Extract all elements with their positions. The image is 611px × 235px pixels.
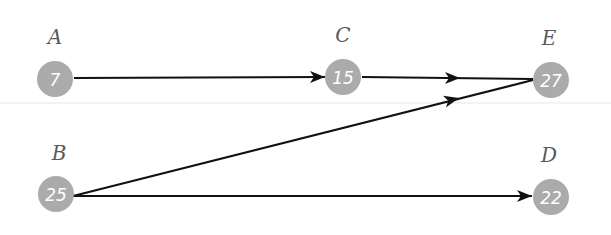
node-label-d: D bbox=[540, 143, 557, 167]
graph-canvas: 7A15C27E25B22D bbox=[0, 0, 611, 235]
edge-b-e bbox=[73, 80, 533, 196]
node-value-e: 27 bbox=[540, 71, 562, 91]
node-label-e: E bbox=[541, 26, 557, 50]
node-value-b: 25 bbox=[45, 185, 67, 205]
nodes-group: 7A15C27E25B22D bbox=[37, 23, 569, 215]
edge-c-e bbox=[362, 72, 533, 84]
node-label-b: B bbox=[51, 141, 67, 165]
edge-line-a-c bbox=[74, 77, 325, 78]
node-label-c: C bbox=[335, 23, 350, 47]
node-c[interactable]: 15C bbox=[325, 23, 361, 95]
graph-svg: 7A15C27E25B22D bbox=[0, 0, 611, 235]
node-value-a: 7 bbox=[50, 70, 61, 90]
node-a[interactable]: 7A bbox=[37, 25, 73, 97]
node-d[interactable]: 22D bbox=[533, 143, 569, 215]
edges-group bbox=[73, 71, 533, 202]
node-value-c: 15 bbox=[332, 68, 354, 88]
edge-line-c-e bbox=[362, 77, 533, 79]
node-b[interactable]: 25B bbox=[38, 141, 74, 212]
node-label-a: A bbox=[46, 25, 62, 49]
edge-a-c bbox=[74, 71, 325, 83]
edge-line-b-e bbox=[73, 80, 533, 196]
edge-b-d bbox=[73, 190, 532, 202]
node-value-d: 22 bbox=[540, 188, 562, 208]
node-e[interactable]: 27E bbox=[533, 26, 569, 98]
